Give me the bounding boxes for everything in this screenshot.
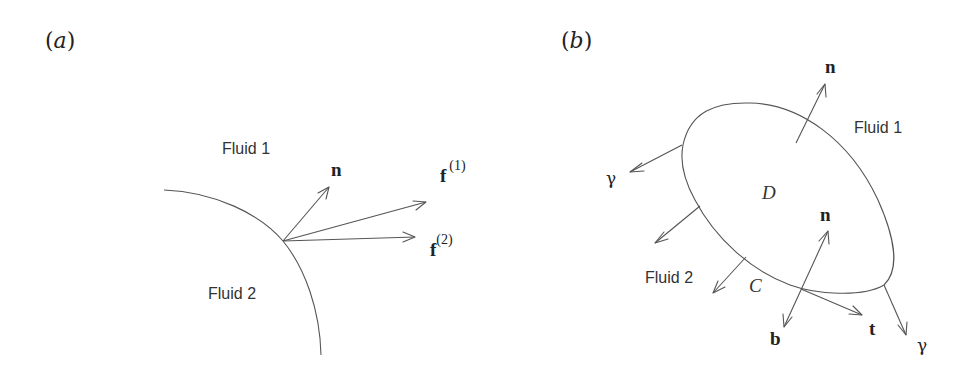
force2-superscript: (2) (436, 232, 452, 247)
force2-vector-arrow (283, 237, 415, 241)
fluid-2-label: Fluid 2 (208, 286, 256, 302)
force1-superscript: (1) (449, 158, 465, 173)
normal-edge-label: n (820, 205, 831, 224)
figure-canvas (0, 0, 971, 365)
contour-c-label: C (749, 276, 762, 295)
normal-binormal-arrow (784, 231, 828, 327)
binormal-label: b (770, 329, 781, 348)
panel-b-letter: b (570, 28, 584, 53)
surface-tension-arrow (655, 206, 700, 243)
arrowhead-icon (630, 163, 644, 172)
panel-b-tag: (b) (561, 30, 592, 52)
region-d-label: D (762, 183, 776, 202)
normal-vector-label: n (331, 160, 342, 179)
force1-base: f (440, 165, 446, 186)
gamma-right-label: γ (917, 337, 927, 354)
force1-vector-arrow (283, 202, 426, 241)
panel-a-graphics (164, 187, 426, 355)
force2-label: f(2) (430, 240, 453, 259)
fluid-1-label: Fluid 1 (222, 141, 270, 157)
normal-vector-arrow (283, 187, 329, 241)
tangent-label: t (869, 319, 875, 338)
interface-arc (164, 190, 321, 355)
panel-a-letter: a (54, 28, 67, 53)
gamma-right-arrow (884, 285, 906, 335)
surface-tension-arrow (713, 257, 746, 293)
arrowhead-icon (898, 322, 907, 335)
gamma-left-arrow (630, 145, 682, 172)
normal-top-label: n (825, 57, 836, 76)
panel-a-tag: (a) (45, 30, 75, 52)
gamma-left-label: γ (606, 170, 616, 187)
normal-vector-top-arrow (796, 84, 825, 143)
force1-label: f(1) (440, 166, 466, 185)
fluid-2-label: Fluid 2 (645, 270, 693, 286)
fluid-1-label: Fluid 1 (854, 120, 902, 136)
